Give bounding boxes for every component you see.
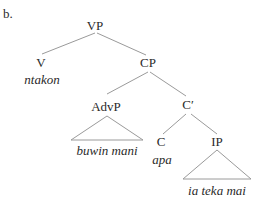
node-c: C xyxy=(157,135,166,149)
words-buwin-mani: buwin mani xyxy=(76,144,137,158)
words-ia-teka-mai: ia teka mai xyxy=(188,184,246,198)
branch-vp-cp xyxy=(97,33,146,55)
branch-vp-v xyxy=(42,33,95,54)
branch-cp-cbar xyxy=(150,72,186,96)
triangle-ip xyxy=(183,150,251,179)
triangle-advp xyxy=(71,116,143,140)
tree-branches xyxy=(0,0,267,208)
word-apa: apa xyxy=(152,153,172,167)
node-cbar: C′ xyxy=(182,98,194,112)
word-ntakon: ntakon xyxy=(24,73,59,87)
node-vp: VP xyxy=(87,19,104,33)
branch-cbar-c xyxy=(163,114,186,134)
node-v: V xyxy=(36,56,45,70)
branch-cbar-ip xyxy=(191,114,217,134)
node-ip: IP xyxy=(211,135,223,149)
node-advp: AdvP xyxy=(91,100,121,114)
branch-cp-advp xyxy=(107,72,148,94)
node-cp: CP xyxy=(140,56,156,70)
